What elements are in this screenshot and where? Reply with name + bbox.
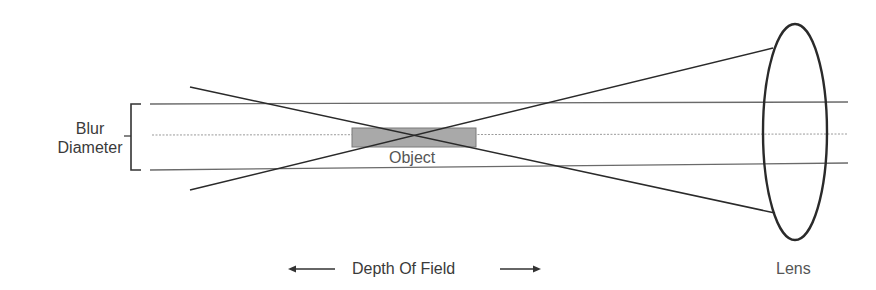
depth-of-field-diagram xyxy=(0,0,876,290)
depth-of-field-label: Depth Of Field xyxy=(352,259,455,278)
top-ray xyxy=(150,102,848,104)
lens-label: Lens xyxy=(776,259,811,278)
lens-ellipse xyxy=(763,24,827,240)
blur-label-line2: Diameter xyxy=(50,138,130,157)
ray-lower-to-upper xyxy=(190,48,773,190)
horizontal-rays xyxy=(150,102,848,170)
blur-label-line1: Blur xyxy=(50,119,130,138)
left-arrowhead-icon xyxy=(288,266,296,273)
ray-upper-to-lower xyxy=(190,87,775,213)
right-arrowhead-icon xyxy=(533,266,541,273)
converging-rays xyxy=(190,48,775,213)
bottom-ray xyxy=(150,163,848,170)
object-label: Object xyxy=(389,148,435,167)
blur-diameter-label: Blur Diameter xyxy=(50,119,130,157)
center-axis xyxy=(152,134,848,135)
